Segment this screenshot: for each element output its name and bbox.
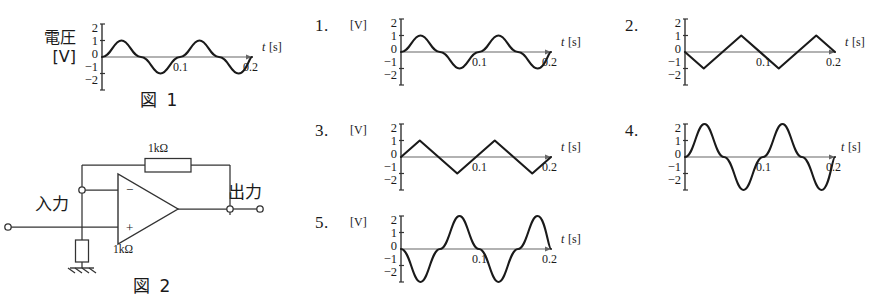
option-2[interactable]: 2. 2 1 0 −1 −2 0.1 0.2 t [s] [625, 8, 880, 108]
option-5-plot [399, 214, 559, 284]
option-3[interactable]: 3. [V] 2 1 0 −1 −2 0.1 0.2 t [s] [315, 113, 605, 213]
option-5-unit-label: [V] [350, 215, 367, 230]
figure2-circuit: 入力 出力 1kΩ 1kΩ [0, 130, 300, 308]
figure1-x-axis-unit: [s] [269, 40, 282, 55]
option-1-plot [399, 17, 559, 87]
option-4-x-axis-symbol: t [841, 140, 844, 155]
figure2-caption: 図 2 [133, 272, 172, 297]
option-1-x-tick-mid: 0.1 [472, 55, 487, 70]
option-4-y-tick-labels: 2 1 0 −1 −2 [661, 122, 681, 187]
option-1-x-tick-end: 0.2 [542, 55, 557, 70]
figure1-x-tick-end: 0.2 [243, 60, 258, 75]
option-2-x-axis-unit: [s] [852, 35, 865, 50]
option-2-y-tick-labels: 2 1 0 −1 −2 [661, 17, 681, 82]
option-1-number: 1. [315, 16, 329, 36]
option-1-unit-label: [V] [350, 18, 367, 33]
option-3-x-tick-mid: 0.1 [472, 160, 487, 175]
option-2-x-axis-symbol: t [845, 35, 848, 50]
y-tick-label: −2 [377, 69, 397, 82]
option-3-x-axis-symbol: t [561, 140, 564, 155]
y-tick-label: −2 [661, 174, 681, 187]
figure1-x-axis-symbol: t [262, 40, 265, 55]
option-4-x-tick-end: 0.2 [826, 160, 841, 175]
y-tick-label: −2 [78, 74, 98, 87]
opamp-noninverting-sign: + [126, 220, 133, 235]
option-3-plot [399, 122, 559, 192]
opamp-inverting-sign: − [126, 182, 133, 197]
option-5-x-tick-mid: 0.1 [472, 252, 487, 267]
option-4-x-tick-mid: 0.1 [756, 160, 771, 175]
y-tick-label: −2 [661, 69, 681, 82]
option-5[interactable]: 5. [V] 2 1 0 −1 −2 0.1 0.2 t [s] [315, 205, 605, 305]
option-1-x-axis-symbol: t [561, 35, 564, 50]
option-2-number: 2. [625, 16, 639, 36]
option-1-y-tick-labels: 2 1 0 −1 −2 [377, 17, 397, 82]
option-4-number: 4. [625, 121, 639, 141]
figure1-y-axis-label-line2: [V] [18, 47, 76, 66]
figure1-plot [100, 22, 260, 92]
figure1-y-axis-label-line1: 電圧 [18, 28, 76, 47]
option-2-x-tick-mid: 0.1 [756, 55, 771, 70]
figure1-x-tick-mid: 0.1 [173, 60, 188, 75]
option-3-unit-label: [V] [350, 123, 367, 138]
option-5-y-tick-labels: 2 1 0 −1 −2 [377, 214, 397, 279]
option-5-x-axis-symbol: t [561, 232, 564, 247]
circuit-schematic: − + [60, 152, 290, 272]
option-4-plot [683, 122, 843, 192]
y-tick-label: −2 [377, 174, 397, 187]
option-3-y-tick-labels: 2 1 0 −1 −2 [377, 122, 397, 187]
option-5-x-axis-unit: [s] [568, 232, 581, 247]
option-1[interactable]: 1. [V] 2 1 0 −1 −2 0.1 0.2 t [s] [315, 8, 605, 108]
option-1-x-axis-unit: [s] [568, 35, 581, 50]
figure1-y-axis-label: 電圧 [V] [18, 28, 76, 66]
option-4[interactable]: 4. 2 1 0 −1 −2 0.1 0.2 t [s] [625, 113, 880, 213]
figure1-y-tick-labels: 2 1 0 −1 −2 [78, 22, 98, 87]
option-2-x-tick-end: 0.2 [826, 55, 841, 70]
option-2-plot [683, 17, 843, 87]
option-5-number: 5. [315, 213, 329, 233]
option-3-x-axis-unit: [s] [568, 140, 581, 155]
figure1-graph: 電圧 [V] 2 1 0 −1 −2 0.1 0.2 t [s] 図 1 [0, 0, 300, 115]
option-5-x-tick-end: 0.2 [542, 252, 557, 267]
option-3-number: 3. [315, 121, 329, 141]
y-tick-label: −2 [377, 266, 397, 279]
option-4-x-axis-unit: [s] [848, 140, 861, 155]
figure1-caption: 図 1 [140, 86, 179, 111]
option-3-x-tick-end: 0.2 [542, 160, 557, 175]
